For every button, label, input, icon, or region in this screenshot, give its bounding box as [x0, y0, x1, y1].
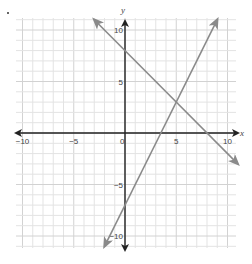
x-tick-label: 5 — [174, 137, 179, 146]
x-tick-label: −10 — [16, 137, 30, 146]
y-tick-label: 5 — [119, 78, 124, 87]
y-tick-label: −5 — [114, 181, 124, 190]
x-tick-label: 10 — [223, 137, 232, 146]
x-tick-label: 0 — [120, 137, 125, 146]
axes: xy — [16, 5, 244, 250]
y-tick-label: 10 — [114, 26, 123, 35]
x-tick-label: −5 — [69, 137, 79, 146]
coordinate-plane: xy −10−50510105−5−10 — [0, 0, 252, 264]
x-axis-label: x — [239, 128, 244, 138]
line-1-segment-a — [94, 20, 166, 92]
line-2-segment-a — [105, 133, 161, 246]
y-axis-label: y — [120, 5, 125, 15]
